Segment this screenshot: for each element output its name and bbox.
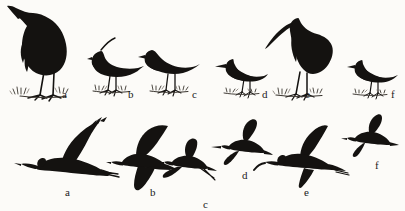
bird-silhouette-plate: a [0,0,405,211]
bird-flying-sandpiper [162,138,220,190]
label-standing-c: c [192,89,197,100]
bird-standing-redshank [348,55,404,103]
label-flying-e: e [304,187,309,198]
bird-flying-heron [16,116,120,192]
standing-birds-row: a [0,0,405,108]
label-flying-c: c [203,199,208,210]
bird-standing-heron [4,2,88,102]
bird-standing-lapwing [88,38,150,102]
bird-standing-curlew [262,12,344,104]
label-flying-f: f [375,160,379,171]
label-standing-f: f [391,89,395,100]
label-flying-b: b [150,187,156,198]
label-flying-a: a [65,187,70,198]
bird-flying-redshank [345,112,401,164]
label-standing-e: e [305,89,310,100]
label-standing-b: b [128,89,134,100]
flying-birds-row: a b [0,108,405,211]
label-flying-d: d [242,170,248,181]
label-standing-a: a [62,89,67,100]
